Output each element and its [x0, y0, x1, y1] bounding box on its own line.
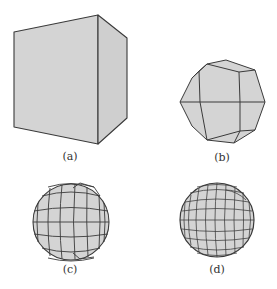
figure-canvas — [0, 0, 277, 289]
sphere-level-3-shape — [180, 183, 254, 257]
panel-c-caption: (c) — [50, 263, 90, 276]
panel-a-caption: (a) — [50, 150, 90, 163]
panel-b-caption: (b) — [202, 151, 242, 164]
cube-shape — [14, 15, 127, 144]
panel-d-caption: (d) — [197, 263, 237, 276]
polyhedron-shape — [180, 60, 265, 143]
sphere-level-2-shape — [33, 183, 109, 261]
